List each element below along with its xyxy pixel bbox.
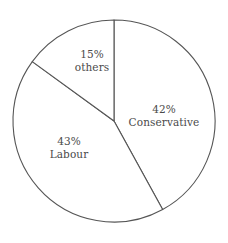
- slice-label-conservative: 42% Conservative: [129, 103, 200, 128]
- slice-percent-others: 15%: [75, 48, 110, 61]
- slice-label-labour: 43% Labour: [50, 135, 89, 160]
- slice-name-conservative: Conservative: [129, 115, 200, 128]
- pie-chart: 42% Conservative 43% Labour 15% others: [0, 0, 228, 243]
- slice-name-others: others: [75, 60, 110, 73]
- slice-name-labour: Labour: [50, 147, 89, 160]
- slice-percent-labour: 43%: [50, 135, 89, 148]
- slice-label-others: 15% others: [75, 48, 110, 73]
- slice-percent-conservative: 42%: [129, 103, 200, 116]
